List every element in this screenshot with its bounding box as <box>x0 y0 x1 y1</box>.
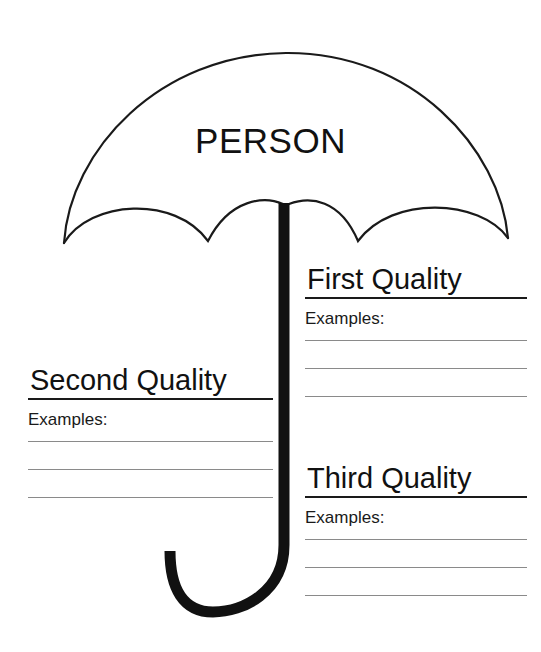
write-line[interactable] <box>28 497 273 498</box>
examples-label-first: Examples: <box>305 308 527 329</box>
write-line[interactable] <box>305 368 527 369</box>
write-line[interactable] <box>305 567 527 568</box>
quality-block-second: Second Quality Examples: <box>28 363 273 498</box>
write-lines-third <box>305 539 527 596</box>
quality-title-second: Second Quality <box>30 363 273 397</box>
quality-block-first: First Quality Examples: <box>305 262 527 397</box>
quality-block-third: Third Quality Examples: <box>305 461 527 596</box>
write-lines-first <box>305 340 527 397</box>
write-line[interactable] <box>28 469 273 470</box>
person-topic-label: PERSON <box>0 121 541 161</box>
worksheet-page: PERSON First Quality Examples: Second Qu… <box>0 0 541 652</box>
write-line[interactable] <box>28 441 273 442</box>
quality-title-third: Third Quality <box>307 461 527 495</box>
examples-label-third: Examples: <box>305 507 527 528</box>
write-line[interactable] <box>305 396 527 397</box>
write-line[interactable] <box>305 340 527 341</box>
examples-label-second: Examples: <box>28 409 273 430</box>
quality-rule-third <box>305 496 527 498</box>
quality-rule-first <box>305 297 527 299</box>
write-line[interactable] <box>305 595 527 596</box>
write-line[interactable] <box>305 539 527 540</box>
quality-rule-second <box>28 398 273 400</box>
write-lines-second <box>28 441 273 498</box>
quality-title-first: First Quality <box>307 262 527 296</box>
